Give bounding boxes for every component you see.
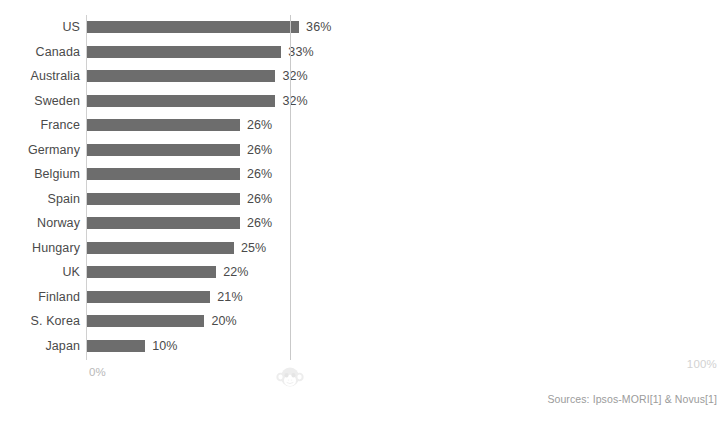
bar	[86, 340, 145, 352]
monkey-face-logo-icon	[276, 364, 304, 390]
bar	[86, 95, 275, 107]
value-label: 22%	[223, 265, 248, 279]
value-label: 26%	[247, 192, 272, 206]
value-label: 21%	[217, 290, 242, 304]
bar-chart: US36%Canada33%Australia32%Sweden32%Franc…	[0, 0, 727, 424]
bar-row: S. Korea20%	[0, 309, 727, 334]
bar-row: Canada33%	[0, 40, 727, 65]
axis-min-label: 0%	[89, 366, 106, 378]
gridline-midpoint	[290, 15, 291, 360]
bar-row: Australia32%	[0, 64, 727, 89]
value-label: 32%	[282, 94, 307, 108]
bar	[86, 70, 275, 82]
category-label: Belgium	[0, 167, 80, 181]
bar-row: Japan10%	[0, 334, 727, 359]
value-label: 36%	[306, 20, 331, 34]
value-label: 26%	[247, 118, 272, 132]
value-label: 26%	[247, 216, 272, 230]
bar-row: Norway26%	[0, 211, 727, 236]
category-label: Norway	[0, 216, 80, 230]
category-label: Germany	[0, 143, 80, 157]
bar	[86, 21, 299, 33]
category-label: Canada	[0, 45, 80, 59]
category-label: UK	[0, 265, 80, 279]
bar-row: Belgium26%	[0, 162, 727, 187]
category-label: Japan	[0, 339, 80, 353]
value-label: 10%	[152, 339, 177, 353]
bar-row: UK22%	[0, 260, 727, 285]
bar	[86, 291, 210, 303]
sources-note: Sources: Ipsos-MORI[1] & Novus[1]	[547, 393, 717, 405]
value-label: 32%	[282, 69, 307, 83]
value-label: 26%	[247, 143, 272, 157]
axis-max-label: 100%	[687, 358, 717, 370]
category-label: France	[0, 118, 80, 132]
value-label: 26%	[247, 167, 272, 181]
bar-row: Finland21%	[0, 285, 727, 310]
category-label: Spain	[0, 192, 80, 206]
category-label: US	[0, 20, 80, 34]
bar	[86, 242, 234, 254]
bar-row: Spain26%	[0, 187, 727, 212]
bar-row: US36%	[0, 15, 727, 40]
bar	[86, 46, 281, 58]
value-label: 33%	[288, 45, 313, 59]
bar-row: Hungary25%	[0, 236, 727, 261]
bar	[86, 266, 216, 278]
bar	[86, 168, 240, 180]
category-label: S. Korea	[0, 314, 80, 328]
category-label: Australia	[0, 69, 80, 83]
value-label: 20%	[211, 314, 236, 328]
bar	[86, 144, 240, 156]
category-label: Finland	[0, 290, 80, 304]
category-label: Sweden	[0, 94, 80, 108]
plot-area: US36%Canada33%Australia32%Sweden32%Franc…	[0, 15, 727, 360]
bar	[86, 119, 240, 131]
value-label: 25%	[241, 241, 266, 255]
bar-row: Sweden32%	[0, 89, 727, 114]
bar-row: Germany26%	[0, 138, 727, 163]
category-label: Hungary	[0, 241, 80, 255]
bar	[86, 315, 204, 327]
bar	[86, 193, 240, 205]
bar	[86, 217, 240, 229]
bar-row: France26%	[0, 113, 727, 138]
axis-baseline	[86, 15, 87, 360]
